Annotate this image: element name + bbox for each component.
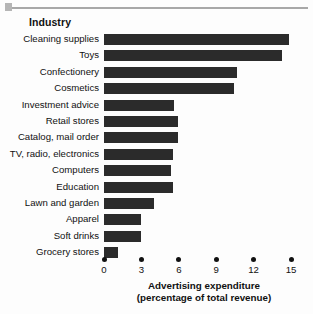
x-axis-tick-label: 3	[129, 264, 153, 275]
bar-row: Lawn and garden	[0, 197, 313, 213]
x-axis-tick-dot	[102, 257, 107, 262]
bar	[104, 132, 178, 143]
plot-area: Cleaning suppliesToysConfectioneryCosmet…	[0, 33, 313, 258]
x-axis-tick-label: 0	[92, 264, 116, 275]
x-axis-title-line-2: (percentage of total revenue)	[104, 292, 304, 304]
bar-category-label: Apparel	[0, 213, 99, 225]
x-axis-tick-dot	[289, 257, 294, 262]
x-axis-tick-dot	[176, 257, 181, 262]
bar-category-label: Soft drinks	[0, 230, 99, 242]
bar-chart: Industry Cleaning suppliesToysConfection…	[0, 0, 313, 314]
x-axis-title-line-1: Advertising expenditure	[104, 280, 304, 292]
bar	[104, 182, 173, 193]
chart-page: Industry Cleaning suppliesToysConfection…	[0, 0, 313, 314]
bar-category-label: Catalog, mail order	[0, 131, 99, 143]
bar-row: Investment advice	[0, 99, 313, 115]
bar-category-label: Retail stores	[0, 115, 99, 127]
bar-row: Soft drinks	[0, 230, 313, 246]
bar-row: Cleaning supplies	[0, 33, 313, 49]
x-axis-tick-dot	[139, 257, 144, 262]
bar-category-label: Cosmetics	[0, 82, 99, 94]
category-axis-header: Industry	[0, 16, 100, 28]
bar	[104, 100, 174, 111]
x-axis-tick-label: 15	[279, 264, 303, 275]
bar-category-label: Investment advice	[0, 99, 99, 111]
x-axis-tick-label: 12	[242, 264, 266, 275]
bar-row: TV, radio, electronics	[0, 148, 313, 164]
bar	[104, 214, 141, 225]
bar	[104, 83, 234, 94]
bar	[104, 34, 289, 45]
bar-category-label: TV, radio, electronics	[0, 148, 99, 160]
bar-row: Education	[0, 181, 313, 197]
x-axis-tick-label: 9	[204, 264, 228, 275]
bar	[104, 50, 282, 61]
bar-category-label: Computers	[0, 164, 99, 176]
bar-row: Confectionery	[0, 66, 313, 82]
bar-row: Catalog, mail order	[0, 131, 313, 147]
bar-category-label: Toys	[0, 49, 99, 61]
x-axis-tick-label: 6	[167, 264, 191, 275]
x-axis: 03691215	[0, 255, 313, 279]
bar	[104, 67, 237, 78]
bar-row: Cosmetics	[0, 82, 313, 98]
bar-category-label: Confectionery	[0, 66, 99, 78]
bar	[104, 231, 141, 242]
x-axis-title: Advertising expenditure (percentage of t…	[104, 280, 304, 304]
bar	[104, 116, 178, 127]
bar	[104, 198, 154, 209]
bar-row: Computers	[0, 164, 313, 180]
bar-row: Toys	[0, 49, 313, 65]
bar	[104, 149, 173, 160]
bar-category-label: Lawn and garden	[0, 197, 99, 209]
bar-row: Retail stores	[0, 115, 313, 131]
x-axis-tick-dot	[214, 257, 219, 262]
bar-category-label: Cleaning supplies	[0, 33, 99, 45]
bar	[104, 165, 171, 176]
bar-category-label: Education	[0, 181, 99, 193]
x-axis-tick-dot	[251, 257, 256, 262]
bar-row: Apparel	[0, 213, 313, 229]
